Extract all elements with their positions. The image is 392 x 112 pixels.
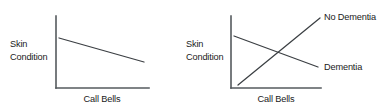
left-y-axis-label-line2: Condition bbox=[10, 51, 54, 64]
left-y-axis-label-line1: Skin bbox=[10, 38, 54, 51]
right-series-line-dementia bbox=[234, 36, 318, 67]
right-y-axis-label-line2: Condition bbox=[186, 51, 230, 64]
chart-panel-right: Skin Condition Call Bells No Dementia De… bbox=[196, 0, 392, 112]
two-panel-line-chart-figure: Skin Condition Call Bells Skin Condition… bbox=[0, 0, 392, 112]
series-label-dementia: Dementia bbox=[324, 61, 362, 74]
chart-panel-left: Skin Condition Call Bells bbox=[0, 0, 196, 112]
right-y-axis-label-line1: Skin bbox=[186, 38, 230, 51]
left-x-axis-label: Call Bells bbox=[55, 93, 149, 106]
right-x-axis-label: Call Bells bbox=[231, 93, 321, 106]
right-y-axis-label: Skin Condition bbox=[186, 38, 230, 63]
left-series-line-skin-condition bbox=[59, 38, 144, 62]
series-label-no-dementia: No Dementia bbox=[324, 11, 376, 24]
left-y-axis-label: Skin Condition bbox=[10, 38, 54, 63]
right-series-line-no-dementia bbox=[238, 18, 320, 85]
